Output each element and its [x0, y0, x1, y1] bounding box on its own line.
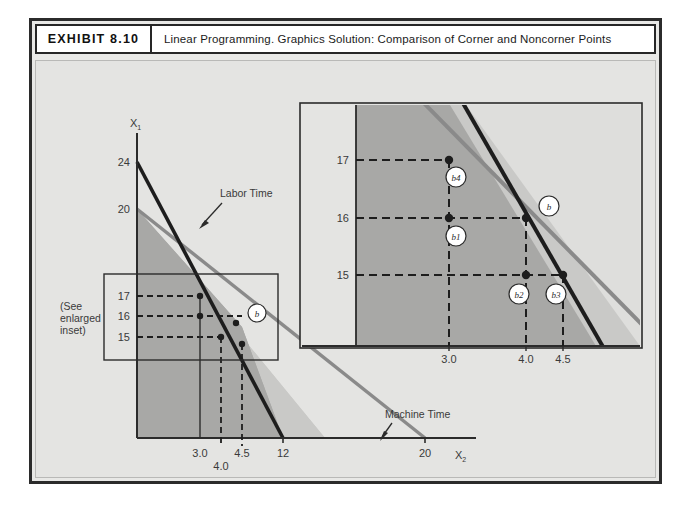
inset-b2-badge-label: b2 [515, 290, 525, 300]
main-xtick-label-20: 20 [419, 447, 431, 459]
inset-b4-badge-label: b4 [452, 173, 462, 183]
inset-point-b1 [445, 214, 453, 222]
enlarged-inset: 17 16 15 3.0 4.0 4.5 [300, 91, 655, 365]
main-b-badge-label: b [255, 309, 260, 319]
main-xtick-label-3: 3.0 [192, 447, 207, 459]
main-point-b [233, 320, 239, 326]
inset-b3-badge-label: b3 [552, 290, 562, 300]
inset-point-b2 [522, 271, 530, 279]
labor-time-label: Labor Time [220, 187, 273, 199]
main-point-b2 [218, 334, 224, 340]
inset-xtick-label-30: 3.0 [441, 353, 456, 365]
inset-xtick-label-40: 4.0 [518, 353, 533, 365]
feasible-region-fill-2 [137, 209, 283, 438]
inset-ytick-15: 15 [337, 269, 349, 281]
exhibit-container: EXHIBIT 8.10 Linear Programming. Graphic… [29, 18, 662, 484]
main-x-axis-title: X2 [455, 449, 466, 463]
figure-area: 24 20 17 16 15 3.0 4.5 4.0 12 20 X1 [35, 60, 656, 478]
main-y-axis-title: X1 [130, 117, 141, 131]
inset-xtick-label-45: 4.5 [555, 353, 570, 365]
main-ytick-24: 24 [118, 156, 130, 168]
inset-left-margin [302, 105, 356, 346]
main-ytick-20: 20 [118, 203, 130, 215]
machine-time-arrowhead [380, 431, 388, 441]
exhibit-header: EXHIBIT 8.10 Linear Programming. Graphic… [35, 24, 656, 54]
main-ytick-15: 15 [118, 331, 130, 343]
linear-programming-chart: 24 20 17 16 15 3.0 4.5 4.0 12 20 X1 [36, 61, 655, 477]
inset-ytick-16: 16 [337, 212, 349, 224]
main-point-b3 [239, 341, 245, 347]
labor-time-arrowhead [199, 220, 209, 229]
inset-note: (See enlarged inset) [60, 300, 104, 336]
inset-b1-badge-label: b1 [452, 232, 461, 242]
main-xtick-label-45: 4.5 [234, 447, 249, 459]
inset-point-b [522, 214, 530, 222]
inset-ytick-17: 17 [337, 154, 349, 166]
main-ytick-16: 16 [118, 310, 130, 322]
machine-time-label: Machine Time [385, 408, 451, 420]
main-point-b4 [197, 293, 203, 299]
main-ytick-17: 17 [118, 290, 130, 302]
inset-point-b3 [559, 271, 567, 279]
inset-b-badge-label: b [547, 202, 552, 212]
main-xtick-label-40: 4.0 [213, 460, 228, 472]
exhibit-title: Linear Programming. Graphics Solution: C… [152, 26, 654, 52]
exhibit-number: EXHIBIT 8.10 [37, 26, 152, 52]
main-point-b1 [197, 313, 203, 319]
main-xtick-label-12: 12 [277, 447, 289, 459]
inset-point-b4 [445, 156, 453, 164]
